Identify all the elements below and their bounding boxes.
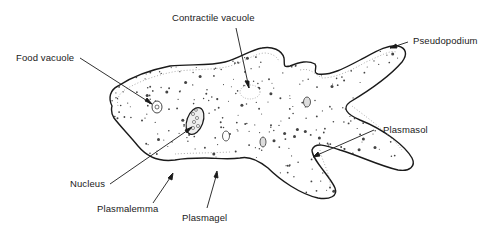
label-plasmagel: Plasmagel [182,212,227,223]
granule [362,122,364,124]
granule [223,127,224,128]
granule [287,165,289,167]
granule [147,105,149,107]
granule [307,79,308,80]
granule [114,116,116,118]
granule [253,81,254,82]
granule [319,143,320,144]
granule [293,176,294,177]
granule [292,106,293,107]
granule [316,129,317,130]
granule [311,159,313,161]
granule [176,107,178,109]
granule [254,124,255,125]
granule [372,133,373,134]
granule [364,72,366,74]
granule [329,143,331,145]
granule [195,148,196,149]
granule [159,71,160,72]
granule [336,78,338,80]
granule [187,140,188,141]
granule [214,109,216,111]
granule [357,128,358,129]
granule [246,123,247,124]
granule [146,73,147,74]
granule [249,131,250,132]
granule [329,106,331,108]
granule [287,172,289,174]
amoeba-diagram: Contractile vacuole Pseudopodium Food va… [0,0,497,230]
granule [314,100,315,101]
granule [291,66,293,68]
granule [284,138,286,140]
granule [343,121,345,123]
granule [136,91,138,93]
granule [344,148,346,150]
granule [352,97,353,98]
granule [278,146,280,148]
granule [293,135,296,138]
granule [320,180,321,181]
granule [206,89,208,91]
granule [310,134,312,136]
granule [331,85,334,88]
granule [146,114,147,115]
granule [130,117,132,119]
granule [194,99,195,100]
granule [390,141,392,143]
granule [205,93,207,95]
granule [149,72,151,74]
granule [244,57,245,58]
granule [193,136,195,138]
granule [211,96,213,98]
granule [283,132,286,135]
granule [160,73,161,74]
granule [176,66,177,67]
granule [269,131,270,132]
granule [179,91,181,93]
granule [231,86,232,87]
granule [141,120,143,122]
granule [262,81,263,82]
granule [289,108,291,110]
granule [160,87,161,88]
granule [181,119,184,122]
granule [305,118,306,119]
granule [168,130,170,132]
granule [258,108,260,110]
granule [157,133,158,134]
granule [323,132,325,134]
granule [130,106,131,107]
granule [286,165,287,166]
granule [235,151,237,153]
granule [373,60,374,61]
granule [120,105,122,107]
granule [204,147,206,149]
granule [149,86,151,88]
granule [360,82,361,83]
granule [321,75,322,76]
granule [185,81,186,82]
food-vacuole-shape [152,101,162,113]
granule [149,153,151,155]
granule [296,128,299,131]
granule [379,149,380,150]
granule [217,144,218,145]
granule [240,104,243,107]
granule [220,121,222,123]
granule [282,72,283,73]
granule [237,90,239,92]
granule [391,156,393,158]
granule [270,124,272,126]
granule [238,115,239,116]
granule [261,150,262,151]
granule [342,107,343,108]
granule [124,116,126,118]
granule [228,101,229,102]
granule [322,172,323,173]
plasmalemma-leader [153,175,172,203]
granule [115,97,117,99]
granule [235,93,236,94]
granule [299,84,300,85]
granule [391,53,394,56]
